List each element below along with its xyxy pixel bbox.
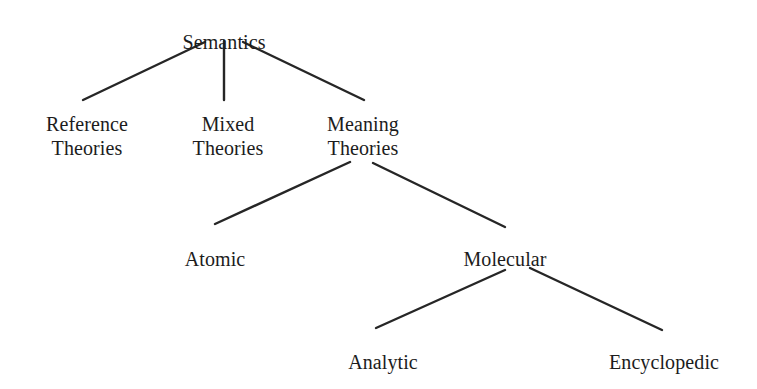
node-atomic: Atomic xyxy=(185,247,246,271)
node-analytic: Analytic xyxy=(348,350,418,374)
node-label-line1: Meaning xyxy=(327,113,399,135)
node-meaning-theories: MeaningTheories xyxy=(327,112,399,160)
node-label-line1: Analytic xyxy=(348,351,418,373)
diagram-canvas: SemanticsReferenceTheoriesMixedTheoriesM… xyxy=(0,0,757,389)
node-semantics: Semantics xyxy=(182,30,265,54)
edge-meaning-molecular xyxy=(373,163,505,227)
edge-molecular-analytic xyxy=(376,270,505,328)
node-label-line2: Theories xyxy=(327,136,399,160)
node-label-line1: Encyclopedic xyxy=(609,351,719,373)
node-label-line1: Reference xyxy=(46,113,128,135)
edge-molecular-encyclopedic xyxy=(530,268,662,330)
node-encyclopedic: Encyclopedic xyxy=(609,350,719,374)
node-label-line1: Mixed xyxy=(202,113,255,135)
diagram-edges xyxy=(0,0,757,389)
node-label-line2: Theories xyxy=(193,136,264,160)
node-reference-theories: ReferenceTheories xyxy=(46,112,128,160)
node-label-line1: Molecular xyxy=(463,248,546,270)
node-molecular: Molecular xyxy=(463,247,546,271)
edge-meaning-atomic xyxy=(215,162,350,224)
node-label-line1: Atomic xyxy=(185,248,246,270)
node-mixed-theories: MixedTheories xyxy=(193,112,264,160)
node-label-line2: Theories xyxy=(46,136,128,160)
node-label-line1: Semantics xyxy=(182,31,265,53)
